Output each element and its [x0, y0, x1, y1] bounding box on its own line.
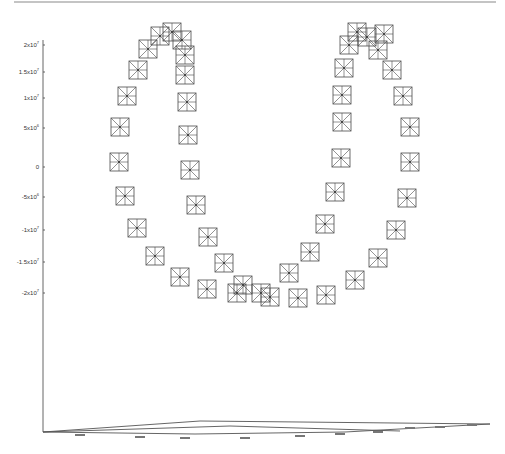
floor-tick-label	[405, 427, 415, 429]
marker-square-asterisk-icon	[332, 149, 350, 167]
marker-square-asterisk-icon	[181, 161, 199, 179]
z-tick-label: 0	[36, 164, 40, 170]
scatter-3d-chart: 2x1071.5x1071x1075x1060-5x106-1x107-1.5x…	[0, 0, 505, 454]
marker-square-asterisk-icon	[375, 25, 393, 43]
marker-square-asterisk-icon	[118, 87, 136, 105]
floor-front-edge	[43, 424, 490, 434]
marker-square-asterisk-icon	[128, 219, 146, 237]
floor-tick-label	[295, 435, 305, 437]
marker-square-asterisk-icon	[199, 228, 217, 246]
marker-square-asterisk-icon	[340, 36, 358, 54]
marker-square-asterisk-icon	[289, 289, 307, 307]
marker-square-asterisk-icon	[151, 27, 169, 45]
marker-square-asterisk-icon	[369, 249, 387, 267]
floor-tick-label	[180, 437, 190, 439]
floor-tick-label	[135, 436, 145, 438]
marker-square-asterisk-icon	[394, 87, 412, 105]
marker-square-asterisk-icon	[398, 189, 416, 207]
floor-inner-edge	[43, 426, 400, 432]
marker-square-asterisk-icon	[179, 126, 197, 144]
marker-square-asterisk-icon	[383, 61, 401, 79]
marker-square-asterisk-icon	[146, 247, 164, 265]
z-axis-ticks: 2x1071.5x1071x1075x1060-5x106-1x107-1.5x…	[17, 40, 45, 296]
marker-square-asterisk-icon	[333, 113, 351, 131]
marker-square-asterisk-icon	[187, 196, 205, 214]
marker-square-asterisk-icon	[110, 153, 128, 171]
floor-tick-label	[75, 434, 85, 436]
z-axis: 2x1071.5x1071x1075x1060-5x106-1x107-1.5x…	[17, 40, 45, 432]
marker-square-asterisk-icon	[358, 28, 376, 46]
marker-square-asterisk-icon	[171, 268, 189, 286]
marker-square-asterisk-icon	[111, 118, 129, 136]
z-tick-label: 1.5x107	[19, 67, 40, 75]
floor-box	[43, 421, 490, 439]
z-tick-label: 5x106	[24, 123, 40, 131]
z-tick-label: 2x107	[24, 40, 40, 48]
floor-tick-label	[467, 424, 477, 426]
marker-square-asterisk-icon	[198, 280, 216, 298]
marker-square-asterisk-icon	[280, 264, 298, 282]
data-markers	[110, 23, 419, 307]
marker-square-asterisk-icon	[387, 221, 405, 239]
floor-tick-label	[335, 433, 345, 435]
marker-square-asterisk-icon	[401, 153, 419, 171]
z-tick-label: -1x107	[22, 225, 40, 233]
marker-square-asterisk-icon	[346, 271, 364, 289]
marker-square-asterisk-icon	[116, 187, 134, 205]
z-tick-label: -5x106	[22, 192, 40, 200]
marker-square-asterisk-icon	[176, 46, 194, 64]
floor-back-edge	[43, 421, 490, 432]
marker-square-asterisk-icon	[176, 66, 194, 84]
marker-square-asterisk-icon	[129, 61, 147, 79]
floor-tick-label	[373, 431, 383, 433]
marker-square-asterisk-icon	[401, 118, 419, 136]
marker-square-asterisk-icon	[326, 183, 344, 201]
marker-square-asterisk-icon	[369, 41, 387, 59]
floor-tick-label	[240, 437, 250, 439]
marker-square-asterisk-icon	[215, 254, 233, 272]
marker-square-asterisk-icon	[348, 23, 366, 41]
floor-axis-ticks	[75, 424, 477, 439]
z-tick-label: 1x107	[24, 93, 40, 101]
marker-square-asterisk-icon	[139, 40, 157, 58]
marker-square-asterisk-icon	[301, 243, 319, 261]
marker-square-asterisk-icon	[333, 86, 351, 104]
marker-square-asterisk-icon	[163, 23, 181, 41]
marker-square-asterisk-icon	[261, 288, 279, 306]
marker-square-asterisk-icon	[234, 276, 252, 294]
z-tick-label: -1.5x107	[17, 257, 40, 265]
floor-tick-label	[435, 426, 445, 428]
marker-square-asterisk-icon	[178, 93, 196, 111]
marker-square-asterisk-icon	[317, 286, 335, 304]
marker-square-asterisk-icon	[335, 59, 353, 77]
marker-square-asterisk-icon	[316, 215, 334, 233]
z-tick-label: -2x107	[22, 288, 40, 296]
